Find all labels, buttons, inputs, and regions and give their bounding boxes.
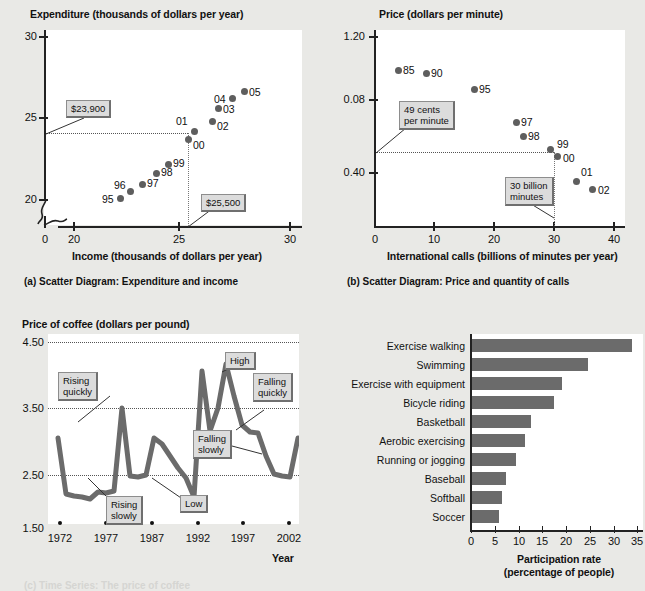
- panel-b-xtick-label-20: 20: [485, 233, 503, 245]
- panel-a-point-96: [127, 188, 134, 195]
- panel-b-point-85: [395, 67, 402, 74]
- panel-a-ytick-20: [39, 199, 48, 201]
- panel-d-xtick-label-10: 10: [510, 535, 528, 547]
- panel-a-point-label-02: 02: [217, 120, 229, 132]
- panel-a-point-95: [117, 195, 124, 202]
- panel-a-callout-23900: $23,900: [66, 100, 111, 118]
- panel-a-point-02: [209, 118, 216, 125]
- panel-d-x-axis-title-line1: Participation rate: [471, 553, 645, 565]
- panel-a-point-99: [165, 161, 172, 168]
- panel-d-xtick-label-0: 0: [462, 535, 480, 547]
- panel-c-xtick-label-2002: 2002: [267, 532, 311, 544]
- panel-d-xtick-label-25: 25: [581, 535, 599, 547]
- panel-d-bar-9: [472, 510, 499, 523]
- panel-b-point-97: [513, 119, 520, 126]
- panel-a-xtick-label-30: 30: [281, 233, 299, 245]
- panel-c-ytick-label-350: 3.50: [10, 402, 44, 414]
- panel-d-bar-0: [472, 339, 632, 352]
- panel-a-callout-25500: $25,500: [201, 194, 246, 212]
- panel-d-category-label-8: Softball: [323, 492, 465, 504]
- panel-a-y-axis-title: Expenditure (thousands of dollars per ye…: [30, 8, 243, 20]
- panel-b-point-label-97: 97: [521, 116, 533, 128]
- panel-c-xtick-dot-1997: [241, 521, 245, 525]
- panel-b-ytick-label-120: 1.20: [329, 30, 365, 42]
- panel-c-caption: (c) Time Series: The price of coffee: [24, 580, 190, 591]
- panel-b-point-01: [573, 178, 580, 185]
- panel-c-y-axis-title: Price of coffee (dollars per pound): [22, 318, 189, 330]
- panel-c-xtick-label-1997: 1997: [221, 532, 265, 544]
- panel-b-xtick-label-30: 30: [545, 233, 563, 245]
- panel-a-point-01: [191, 128, 198, 135]
- panel-a-ytick-30: [39, 36, 48, 38]
- panel-d-xtick-label-20: 20: [557, 535, 575, 547]
- panel-b-xtick-label-0: 0: [366, 233, 384, 245]
- panel-c-ytick-label-250: 2.50: [10, 469, 44, 481]
- panel-b-point-label-98: 98: [528, 130, 540, 142]
- panel-a-xtick-label-20: 20: [65, 233, 83, 245]
- panel-d-xtick-25: [590, 526, 591, 533]
- panel-d-bar-6: [472, 453, 516, 466]
- panel-b-point-00: [554, 153, 561, 160]
- panel-b-point-98: [520, 133, 527, 140]
- panel-a-xtick-label-25: 25: [170, 233, 188, 245]
- panel-c-xtick-label-1987: 1987: [130, 532, 174, 544]
- panel-c-callout-low: Low: [180, 495, 208, 513]
- panel-b-point-90: [423, 70, 430, 77]
- panel-b-xtick-20: [493, 222, 495, 231]
- panel-c-xtick-dot-1992: [196, 521, 200, 525]
- panel-b-scatter-price-calls: Price (dollars per minute) 1.20 0.08 0.4…: [323, 0, 645, 300]
- panel-b-ytick-120: [369, 36, 378, 38]
- panel-a-point-label-05: 05: [249, 86, 261, 98]
- panel-b-xtick-40: [613, 222, 615, 231]
- panel-a-y-axis-line: [44, 30, 46, 200]
- panel-b-point-label-90: 90: [431, 67, 443, 79]
- panel-d-bar-participation: Exercise walking Swimming Exercise with …: [323, 330, 645, 591]
- panel-d-bar-3: [472, 396, 554, 409]
- panel-b-ytick-label-008: 0.08: [329, 93, 365, 105]
- panel-a-point-label-00: 00: [193, 139, 205, 151]
- panel-c-callout-high: High: [225, 352, 256, 370]
- panel-c-xtick-dot-1972: [58, 521, 62, 525]
- panel-b-point-99: [547, 146, 554, 153]
- panel-a-xtick-20: [73, 222, 75, 231]
- panel-d-bar-5: [472, 434, 525, 447]
- panel-a-axis-break-icon: [36, 198, 66, 230]
- panel-d-xtick-0: [471, 526, 472, 533]
- panel-c-callout-leader-falling-slowly: [232, 446, 264, 456]
- panel-c-xtick-dot-1987: [150, 521, 154, 525]
- panel-c-xtick-label-1972: 1972: [38, 532, 82, 544]
- panel-a-x-axis-title: Income (thousands of dollars per year): [72, 250, 262, 262]
- panel-d-x-axis-title-line2: (percentage of people): [471, 566, 645, 578]
- panel-a-ytick-label-25: 25: [17, 111, 37, 123]
- panel-b-point-label-02: 02: [598, 184, 610, 196]
- panel-d-bar-4: [472, 415, 531, 428]
- panel-a-xtick-25: [178, 222, 180, 231]
- panel-a-point-label-01: 01: [176, 115, 188, 127]
- panel-a-point-97: [139, 181, 146, 188]
- panel-a-point-04: [229, 95, 236, 102]
- panel-a-point-label-96: 96: [114, 179, 126, 191]
- panel-d-xtick-label-15: 15: [533, 535, 551, 547]
- panel-b-xtick-label-10: 10: [425, 233, 443, 245]
- panel-d-xtick-label-5: 5: [486, 535, 504, 547]
- panel-c-callout-falling-slowly: Falling slowly: [193, 430, 232, 459]
- panel-d-xtick-label-35: 35: [628, 535, 645, 547]
- panel-a-x-axis-line: [58, 226, 302, 228]
- panel-d-category-label-5: Aerobic exercising: [323, 435, 465, 447]
- panel-c-callout-leader-falling-quickly: [236, 410, 266, 432]
- panel-a-point-98: [153, 170, 160, 177]
- panel-a-ytick-label-30: 30: [17, 30, 37, 42]
- panel-b-ytick-040: [369, 172, 378, 174]
- panel-d-category-label-1: Swimming: [323, 359, 465, 371]
- panel-c-callout-rising-quickly: Rising quickly: [58, 372, 98, 401]
- panel-a-point-label-04: 04: [214, 93, 226, 105]
- panel-a-point-label-95: 95: [102, 193, 114, 205]
- panel-b-xtick-10: [433, 222, 435, 231]
- panel-a-caption: (a) Scatter Diagram: Expenditure and inc…: [24, 276, 238, 287]
- panel-b-callout-30-billion: 30 billion minutes: [505, 177, 554, 206]
- panel-b-point-label-00: 00: [563, 152, 575, 164]
- panel-a-point-03: [215, 105, 222, 112]
- panel-a-point-05: [241, 88, 248, 95]
- panel-a-xtick-30: [289, 222, 291, 231]
- panel-d-category-label-7: Baseball: [323, 473, 465, 485]
